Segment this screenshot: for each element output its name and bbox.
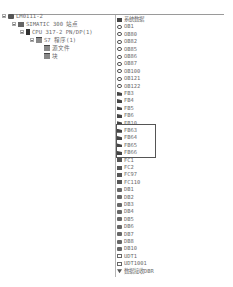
fc-block-icon: [117, 180, 122, 184]
list-item[interactable]: FB66: [117, 149, 137, 156]
list-item-label: 系统数据: [124, 16, 144, 23]
list-item[interactable]: DB10: [117, 245, 137, 252]
ob-block-icon: [117, 62, 122, 66]
list-item-label: OB121: [124, 75, 140, 82]
list-item-label: FB66: [124, 149, 137, 156]
tree-item-sources[interactable]: 源文件: [44, 44, 70, 52]
list-item-label: UDT1001: [124, 260, 147, 267]
list-item[interactable]: FB63: [117, 127, 137, 134]
list-item-label: FC110: [124, 179, 140, 186]
list-item-label: FB63: [124, 127, 137, 134]
blocks-folder-icon: [44, 53, 50, 59]
list-item-label: DB2: [124, 194, 134, 201]
fb-block-icon: [117, 121, 122, 125]
list-item[interactable]: OB87: [117, 60, 137, 67]
list-item[interactable]: FB5: [117, 105, 134, 112]
list-item[interactable]: OB86: [117, 53, 137, 60]
list-item-label: FB3: [124, 90, 134, 97]
list-item[interactable]: FC1: [117, 157, 134, 164]
list-item[interactable]: FB6: [117, 112, 134, 119]
list-item[interactable]: FC97: [117, 171, 137, 178]
list-item[interactable]: OB122: [117, 83, 140, 90]
cpu-icon: [26, 29, 30, 35]
sources-folder-icon: [44, 45, 50, 51]
tree-item-label: 块: [52, 52, 58, 60]
fb-block-icon: [117, 129, 122, 133]
udt-icon: [117, 262, 122, 266]
list-item[interactable]: FB10: [117, 120, 137, 127]
list-item[interactable]: FB64: [117, 134, 137, 141]
tree-item-station[interactable]: SIMATIC 300 站点: [12, 20, 78, 28]
db-block-icon: [117, 225, 122, 229]
list-item-label: DB1: [124, 186, 134, 193]
list-item[interactable]: OB85: [117, 46, 137, 53]
ob-block-icon: [117, 84, 122, 88]
tree-item-label: LM0111-2: [16, 12, 43, 20]
collapse-icon[interactable]: [30, 38, 34, 42]
fc-block-icon: [117, 158, 122, 162]
collapse-icon[interactable]: [2, 14, 6, 18]
list-item[interactable]: OB80: [117, 31, 137, 38]
list-item-label: DB7: [124, 231, 134, 238]
list-item-label: OB85: [124, 46, 137, 53]
list-item[interactable]: FB4: [117, 97, 134, 104]
fb-block-icon: [117, 136, 122, 140]
list-item-label: OB82: [124, 38, 137, 45]
list-item[interactable]: DB1: [117, 186, 134, 193]
data-receive-icon: [117, 269, 122, 273]
fb-block-icon: [117, 92, 122, 96]
list-item[interactable]: FB3: [117, 90, 134, 97]
list-item[interactable]: DB2: [117, 194, 134, 201]
list-item-label: FB10: [124, 120, 137, 127]
list-item-label: DB10: [124, 245, 137, 252]
fb-block-icon: [117, 106, 122, 110]
list-item[interactable]: FC110: [117, 179, 140, 186]
ob-block-icon: [117, 77, 122, 81]
list-item[interactable]: DB6: [117, 223, 134, 230]
list-item[interactable]: OB100: [117, 68, 140, 75]
list-item[interactable]: UDT1001: [117, 260, 147, 267]
list-item[interactable]: DB7: [117, 231, 134, 238]
db-block-icon: [117, 203, 122, 207]
list-item[interactable]: DB8: [117, 238, 134, 245]
ob-block-icon: [117, 40, 122, 44]
list-item-label: FB64: [124, 134, 137, 141]
tree-item-label: SIMATIC 300 站点: [26, 20, 78, 28]
list-item-label: FB65: [124, 142, 137, 149]
list-item[interactable]: DB3: [117, 201, 134, 208]
station-icon: [18, 22, 24, 27]
list-item[interactable]: 数据接收DBR: [117, 268, 154, 275]
list-item[interactable]: FB65: [117, 142, 137, 149]
list-item-label: UDT1: [124, 253, 137, 260]
list-item-label: OB1: [124, 23, 134, 30]
db-block-icon: [117, 195, 122, 199]
list-item-label: DB5: [124, 216, 134, 223]
ob-block-icon: [117, 69, 122, 73]
tree-item-blocks[interactable]: 块: [44, 52, 58, 60]
collapse-icon[interactable]: [12, 22, 16, 26]
ob-block-icon: [117, 32, 122, 36]
system-data-icon: [117, 18, 122, 22]
list-item[interactable]: DB4: [117, 208, 134, 215]
udt-icon: [117, 254, 122, 258]
tree-item-cpu[interactable]: CPU 317-2 PN/DP(1): [20, 28, 93, 36]
db-block-icon: [117, 232, 122, 236]
list-item[interactable]: OB121: [117, 75, 140, 82]
list-item[interactable]: 系统数据: [117, 16, 144, 23]
tree-item-s7-program[interactable]: S7 程序(1): [30, 36, 76, 44]
tree-item-project[interactable]: LM0111-2: [2, 12, 43, 20]
list-item[interactable]: OB1: [117, 23, 134, 30]
list-item[interactable]: FC2: [117, 164, 134, 171]
tree-item-label: S7 程序(1): [44, 36, 76, 44]
list-item[interactable]: OB82: [117, 38, 137, 45]
ob-block-icon: [117, 25, 122, 29]
list-item-label: FC2: [124, 164, 134, 171]
fc-block-icon: [117, 173, 122, 177]
list-item[interactable]: UDT1: [117, 253, 137, 260]
list-item-label: FC1: [124, 157, 134, 164]
ob-block-icon: [117, 47, 122, 51]
collapse-icon[interactable]: [20, 30, 24, 34]
program-folder-icon: [36, 37, 42, 43]
list-item-label: 数据接收DBR: [124, 268, 154, 275]
list-item[interactable]: DB5: [117, 216, 134, 223]
